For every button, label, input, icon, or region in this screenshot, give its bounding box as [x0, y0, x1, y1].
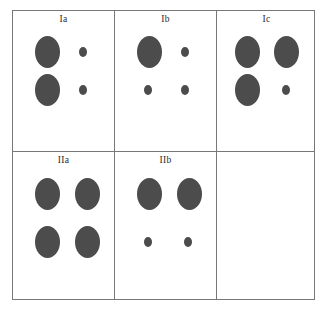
blob-top-left — [137, 178, 162, 210]
blob-bottom-left — [35, 226, 60, 258]
blob-bottom-right — [181, 85, 189, 95]
figure-root: Ia Ib Ic IIa II — [0, 0, 327, 310]
panel-Ic: Ic — [217, 11, 316, 151]
blob-top-right — [177, 178, 202, 210]
blob-bottom-right — [282, 85, 290, 95]
blob-bottom-left — [144, 85, 152, 95]
blob-bottom-right — [79, 85, 87, 95]
blob-bottom-right — [75, 226, 100, 258]
blob-top-right — [274, 36, 299, 68]
panel-Ia: Ia — [13, 11, 114, 151]
blob-top-right — [79, 47, 87, 57]
panel-empty — [217, 152, 316, 299]
blob-top-right — [181, 47, 189, 57]
panel-Ib: Ib — [115, 11, 216, 151]
blob-bottom-left — [235, 74, 260, 106]
panel-grid-frame: Ia Ib Ic IIa II — [12, 10, 315, 300]
blob-bottom-left — [144, 237, 152, 247]
panel-label-Ic: Ic — [217, 13, 316, 25]
blob-top-left — [137, 36, 162, 68]
panel-label-Ia: Ia — [13, 13, 114, 25]
panel-IIa: IIa — [13, 152, 114, 299]
blob-top-left — [35, 178, 60, 210]
panel-label-IIa: IIa — [13, 154, 114, 166]
blob-bottom-left — [35, 74, 60, 106]
blob-top-left — [35, 36, 60, 68]
panel-label-IIb: IIb — [115, 154, 216, 166]
blob-top-right — [75, 178, 100, 210]
panel-IIb: IIb — [115, 152, 216, 299]
blob-top-left — [235, 36, 260, 68]
panel-label-Ib: Ib — [115, 13, 216, 25]
blob-bottom-right — [184, 237, 192, 247]
